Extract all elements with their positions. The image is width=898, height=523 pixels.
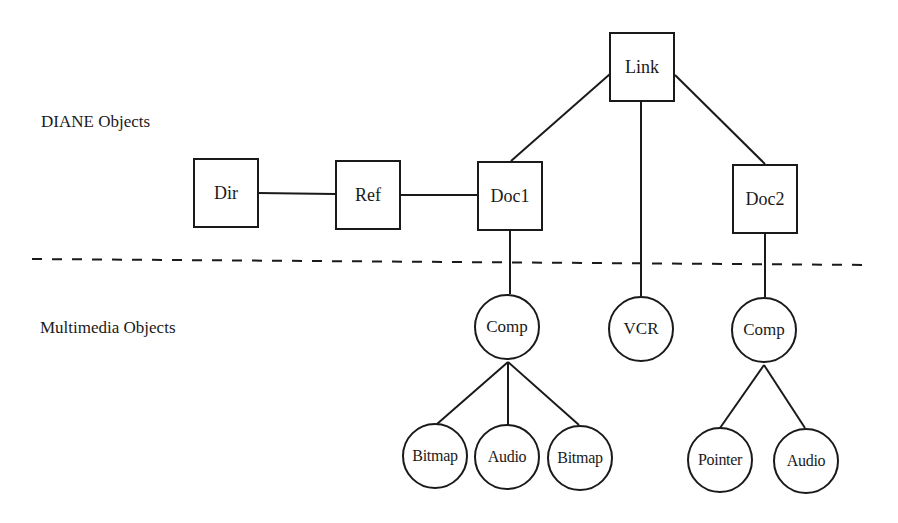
- node-bitmap-2: Bitmap: [547, 425, 613, 491]
- node-label: Comp: [486, 317, 528, 337]
- node-label: Ref: [355, 185, 381, 206]
- node-label: Doc2: [746, 189, 785, 210]
- node-audio-1: Audio: [474, 424, 540, 490]
- node-label: Bitmap: [557, 449, 602, 467]
- node-link: Link: [609, 32, 675, 102]
- node-label: Doc1: [491, 186, 530, 207]
- multimedia-objects-label: Multimedia Objects: [40, 318, 176, 338]
- node-bitmap-1: Bitmap: [402, 423, 468, 489]
- node-doc2: Doc2: [732, 164, 798, 234]
- node-label: Comp: [743, 320, 785, 340]
- node-vcr: VCR: [608, 296, 674, 362]
- node-pointer: Pointer: [687, 427, 753, 493]
- layer-separator: [32, 259, 872, 265]
- node-audio-2: Audio: [773, 428, 839, 494]
- node-comp-1: Comp: [474, 294, 540, 360]
- node-comp-2: Comp: [731, 297, 797, 363]
- node-label: Dir: [214, 183, 238, 204]
- node-label: Bitmap: [412, 447, 457, 465]
- node-dir: Dir: [193, 158, 259, 228]
- node-label: VCR: [624, 319, 659, 339]
- node-label: Audio: [787, 452, 826, 470]
- diane-objects-label: DIANE Objects: [41, 112, 150, 132]
- node-doc1: Doc1: [477, 161, 543, 231]
- node-ref: Ref: [335, 160, 401, 230]
- node-label: Audio: [488, 448, 527, 466]
- node-label: Pointer: [698, 451, 742, 469]
- node-label: Link: [625, 57, 659, 78]
